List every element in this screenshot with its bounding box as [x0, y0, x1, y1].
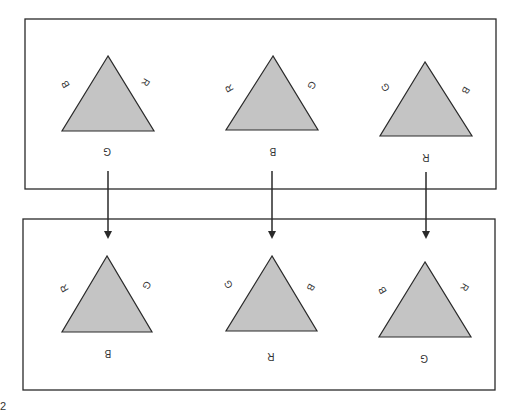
- top-triangle-3-left-label: G: [378, 81, 392, 93]
- bottom-triangle-3: B R G: [376, 262, 472, 364]
- bottom-triangle-3-left-label: B: [376, 285, 389, 297]
- top-triangle-3: G B R: [378, 62, 472, 163]
- bottom-triangle-1: R G B: [58, 256, 154, 359]
- corner-mark: 2: [0, 400, 6, 412]
- top-triangle-2-bottom-label: B: [269, 146, 276, 157]
- top-triangle-2: R G B: [223, 56, 319, 157]
- bottom-triangle-1-right-label: G: [140, 279, 154, 291]
- bottom-triangle-1-bottom-label: B: [104, 348, 111, 359]
- bottom-triangle-1-left-label: R: [58, 283, 71, 295]
- diagram-canvas: B R G R G B G B R R G B G B R B R G 2: [0, 0, 511, 414]
- bottom-triangle-2: G B R: [221, 256, 317, 362]
- bottom-triangle-3-bottom-label: G: [420, 353, 428, 364]
- bottom-triangle-2-left-label: G: [221, 278, 235, 290]
- bottom-triangle-2-bottom-label: R: [267, 351, 274, 362]
- top-triangle-2-right-label: G: [305, 79, 319, 91]
- top-triangle-1-left-label: B: [59, 79, 72, 91]
- top-triangle-1-bottom-label: G: [103, 146, 111, 157]
- bottom-triangle-2-right-label: B: [304, 282, 317, 294]
- top-triangle-3-bottom-label: R: [422, 152, 429, 163]
- top-triangle-2-left-label: R: [223, 83, 236, 95]
- top-triangle-1-right-label: R: [139, 77, 152, 89]
- bottom-triangle-3-right-label: R: [458, 282, 471, 294]
- top-triangle-3-right-label: B: [459, 85, 472, 97]
- top-triangle-1: B R G: [59, 56, 154, 157]
